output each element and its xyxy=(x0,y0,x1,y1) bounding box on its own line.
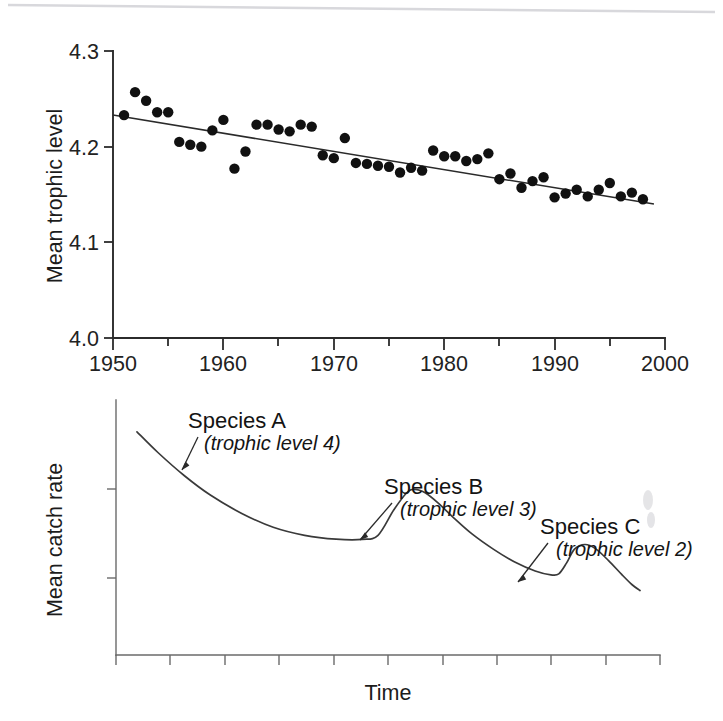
data-point xyxy=(439,151,449,161)
species-b-label: Species B xyxy=(384,474,483,499)
data-point xyxy=(594,185,604,195)
data-point xyxy=(406,163,416,173)
data-point xyxy=(196,141,206,151)
upper-x-ticks xyxy=(113,338,665,350)
upper-x-ticklabel-1950: 1950 xyxy=(89,352,137,376)
upper-x-ticklabel-1990: 1990 xyxy=(531,352,579,376)
data-point xyxy=(516,183,526,193)
upper-x-ticklabel-1960: 1960 xyxy=(199,352,247,376)
upper-y-axis-title: Mean trophic level xyxy=(43,109,67,283)
species-a-sublabel: (trophic level 4) xyxy=(204,432,341,454)
data-point xyxy=(229,163,239,173)
data-point xyxy=(605,178,615,188)
data-point xyxy=(527,176,537,186)
data-point xyxy=(428,145,438,155)
data-point xyxy=(627,187,637,197)
annotation-species-a: Species A (trophic level 4) xyxy=(182,408,341,470)
data-point xyxy=(318,150,328,160)
upper-x-ticklabel-2000: 2000 xyxy=(641,352,689,376)
data-point xyxy=(185,140,195,150)
data-point xyxy=(251,119,261,129)
data-point xyxy=(218,115,228,125)
data-point xyxy=(307,121,317,131)
data-point xyxy=(152,107,162,117)
data-point xyxy=(273,124,283,134)
data-point xyxy=(395,167,405,177)
data-point xyxy=(362,159,372,169)
scan-smudge xyxy=(643,490,655,528)
data-point xyxy=(461,156,471,166)
data-point xyxy=(450,151,460,161)
scatter-points xyxy=(119,87,648,205)
upper-y-ticklabel-4-2: 4.2 xyxy=(69,136,99,160)
upper-x-ticklabel-1970: 1970 xyxy=(310,352,358,376)
species-b-sublabel: (trophic level 3) xyxy=(400,498,537,520)
species-c-sublabel: (trophic level 2) xyxy=(556,538,693,560)
lower-y-ticks xyxy=(107,489,116,578)
data-point xyxy=(571,185,581,195)
data-point xyxy=(141,96,151,106)
data-point xyxy=(616,191,626,201)
species-c-arrowhead xyxy=(518,574,526,582)
annotation-species-c: Species C (trophic level 2) xyxy=(518,514,693,582)
data-point xyxy=(483,148,493,158)
upper-x-ticklabel-1980: 1980 xyxy=(420,352,468,376)
upper-y-ticklabel-4-3: 4.3 xyxy=(69,40,99,64)
data-point xyxy=(638,194,648,204)
data-point xyxy=(494,174,504,184)
scan-artifact-line xyxy=(8,5,715,12)
species-c-label: Species C xyxy=(540,514,640,539)
upper-y-ticks xyxy=(104,51,113,338)
species-a-label: Species A xyxy=(188,408,286,433)
data-point xyxy=(505,168,515,178)
upper-y-ticklabel-4-1: 4.1 xyxy=(69,231,99,255)
data-point xyxy=(174,137,184,147)
data-point xyxy=(262,119,272,129)
data-point xyxy=(560,188,570,198)
data-point xyxy=(384,162,394,172)
species-a-arrowhead xyxy=(182,461,189,470)
data-point xyxy=(119,110,129,120)
data-point xyxy=(340,133,350,143)
data-point xyxy=(538,172,548,182)
data-point xyxy=(130,87,140,97)
data-point xyxy=(549,192,559,202)
data-point xyxy=(284,126,294,136)
data-point xyxy=(417,165,427,175)
data-point xyxy=(207,125,217,135)
data-point xyxy=(373,161,383,171)
upper-panel: Mean trophic level 4.3 4.2 4.1 4.0 xyxy=(43,40,689,376)
mean-catch-rate-curve xyxy=(137,432,640,591)
data-point xyxy=(583,191,593,201)
lower-panel: Mean catch rate xyxy=(43,400,693,705)
annotation-species-b: Species B (trophic level 3) xyxy=(360,474,537,540)
data-point xyxy=(240,146,250,156)
data-point xyxy=(329,153,339,163)
data-point xyxy=(163,107,173,117)
lower-x-ticks xyxy=(116,655,660,665)
data-point xyxy=(472,154,482,164)
data-point xyxy=(351,158,361,168)
data-point xyxy=(295,119,305,129)
scientific-figure: Mean trophic level 4.3 4.2 4.1 4.0 xyxy=(0,0,723,721)
lower-x-axis-title: Time xyxy=(365,681,412,705)
lower-y-axis-title: Mean catch rate xyxy=(43,463,67,617)
figure-container: Mean trophic level 4.3 4.2 4.1 4.0 xyxy=(0,0,723,721)
upper-y-ticklabel-4-0: 4.0 xyxy=(69,327,99,351)
